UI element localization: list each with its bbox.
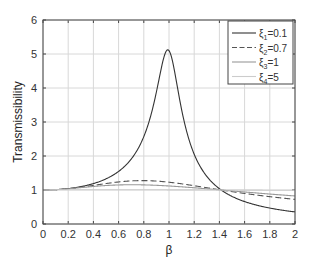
x-tick-label: 1.4 [212, 228, 227, 240]
x-tick-label: 1.6 [237, 228, 252, 240]
x-tick-label: 2 [292, 228, 298, 240]
y-tick-label: 4 [31, 82, 37, 94]
x-tick-label: 0 [40, 228, 46, 240]
y-tick-label: 1 [31, 184, 37, 196]
y-tick-label: 0 [31, 218, 37, 230]
x-tick-label: 0.8 [136, 228, 151, 240]
x-tick-label: 1.8 [262, 228, 277, 240]
x-tick-label: 0.4 [86, 228, 101, 240]
curve-4 [43, 190, 295, 191]
y-tick-label: 5 [31, 48, 37, 60]
y-tick-labels: 0123456 [31, 14, 37, 230]
y-axis-label: Transmissibility [11, 81, 25, 163]
legend: ξ1=0.1ξ2=0.7ξ3=1ξ4=5 [228, 21, 293, 85]
x-axis-label: β [166, 243, 173, 257]
x-tick-label: 0.2 [61, 228, 76, 240]
y-tick-label: 3 [31, 116, 37, 128]
transmissibility-chart: 00.20.40.60.811.21.41.61.82 0123456 β Tr… [0, 0, 314, 268]
x-tick-label: 1.2 [187, 228, 202, 240]
y-tick-label: 2 [31, 150, 37, 162]
y-tick-label: 6 [31, 14, 37, 26]
x-tick-label: 0.6 [111, 228, 126, 240]
x-tick-labels: 00.20.40.60.811.21.41.61.82 [40, 228, 298, 240]
x-tick-label: 1 [166, 228, 172, 240]
